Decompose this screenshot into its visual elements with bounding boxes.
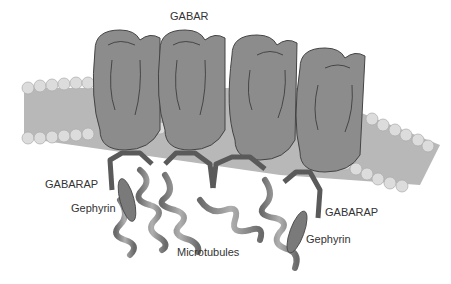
microtubules-label: Microtubules <box>177 246 239 258</box>
gephyrin-left-label: Gephyrin <box>71 202 116 214</box>
gephyrin-right-label: Gephyrin <box>306 233 351 245</box>
gabar-diagram <box>0 0 451 284</box>
gabarap-left-label: GABARAP <box>45 178 98 190</box>
gabar-label: GABAR <box>170 10 209 22</box>
gabarap-right-label: GABARAP <box>325 206 378 218</box>
